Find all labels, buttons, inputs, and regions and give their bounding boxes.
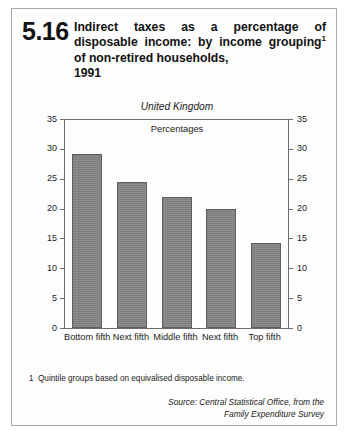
y-tick-label-right-35: 35	[297, 115, 321, 124]
chart: United Kingdom Percentages 0510152025303…	[12, 101, 338, 361]
x-axis-label-2: Middle fifth	[153, 332, 198, 342]
y-tick-left-15	[60, 238, 64, 239]
y-tick-left-20	[60, 209, 64, 210]
x-axis-line	[64, 328, 289, 329]
y-tick-right-10	[289, 268, 293, 269]
x-axis-label-0: Bottom fifth	[64, 332, 109, 342]
footnote-text: Quintile groups based on equivalised dis…	[38, 374, 245, 383]
y-tick-right-30	[289, 149, 293, 150]
figure-panel: 5.16 Indirect taxes as a percentage of d…	[11, 8, 337, 426]
y-tick-right-15	[289, 238, 293, 239]
bar-1	[117, 182, 147, 328]
bar-4	[251, 243, 281, 328]
figure-title-line-2: disposable income: by income	[74, 35, 262, 49]
y-tick-left-5	[60, 298, 64, 299]
figure-page: 5.16 Indirect taxes as a percentage of d…	[0, 0, 349, 445]
y-tick-label-left-30: 30	[33, 144, 57, 153]
y-tick-label-right-30: 30	[297, 144, 321, 153]
x-axis-label-4: Top fifth	[242, 332, 287, 342]
y-tick-right-0	[289, 328, 293, 329]
source-line-2: Family Expenditure Survey	[74, 409, 324, 421]
figure-footnote: 1Quintile groups based on equivalised di…	[29, 373, 325, 384]
chart-region-label: United Kingdom	[64, 101, 290, 112]
y-tick-right-5	[289, 298, 293, 299]
y-tick-label-right-10: 10	[297, 264, 321, 273]
bar-2	[162, 197, 192, 328]
y-tick-label-left-5: 5	[33, 294, 57, 303]
y-tick-right-20	[289, 209, 293, 210]
y-tick-label-left-0: 0	[33, 324, 57, 333]
y-tick-label-left-10: 10	[33, 264, 57, 273]
y-tick-right-35	[289, 119, 293, 120]
y-tick-label-right-20: 20	[297, 204, 321, 213]
y-tick-label-right-5: 5	[297, 294, 321, 303]
y-tick-label-left-15: 15	[33, 234, 57, 243]
y-tick-label-right-25: 25	[297, 174, 321, 183]
bar-series	[65, 119, 288, 328]
y-tick-label-left-20: 20	[33, 204, 57, 213]
y-tick-left-0	[60, 328, 64, 329]
y-tick-right-25	[289, 179, 293, 180]
bar-0	[72, 154, 102, 328]
y-tick-left-35	[60, 119, 64, 120]
bar-3	[206, 209, 236, 328]
figure-title-line-3-text: grouping	[269, 35, 322, 49]
x-axis-category-labels: Bottom fifthNext fifthMiddle fifthNext f…	[64, 332, 290, 348]
figure-number: 5.16	[22, 19, 69, 44]
x-axis-label-1: Next fifth	[109, 332, 154, 342]
figure-title-line-4: 1991	[74, 66, 326, 81]
y-tick-left-25	[60, 179, 64, 180]
plot-frame: 05101520253035 05101520253035	[64, 119, 289, 329]
figure-header: 5.16 Indirect taxes as a percentage of d…	[12, 15, 338, 93]
y-tick-label-left-25: 25	[33, 174, 57, 183]
figure-title-line-3-rest: of non-retired households,	[74, 51, 228, 65]
figure-title-footnote-marker: 1	[322, 34, 326, 43]
figure-title-line-1: Indirect taxes as a percentage of	[74, 20, 326, 34]
footnote-marker: 1	[29, 373, 38, 384]
y-tick-label-left-35: 35	[33, 115, 57, 124]
source-line-1: Source: Central Statistical Office, from…	[74, 397, 324, 409]
y-tick-label-right-0: 0	[297, 324, 321, 333]
figure-title: Indirect taxes as a percentage of dispos…	[74, 20, 326, 82]
y-tick-left-30	[60, 149, 64, 150]
figure-source: Source: Central Statistical Office, from…	[74, 397, 324, 420]
y-tick-label-right-15: 15	[297, 234, 321, 243]
y-tick-left-10	[60, 268, 64, 269]
x-axis-label-3: Next fifth	[198, 332, 243, 342]
